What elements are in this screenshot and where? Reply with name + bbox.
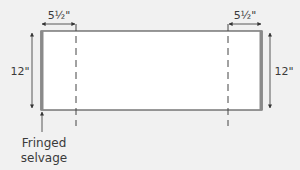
right-height-label: 12" (274, 65, 293, 78)
fabric-panel (41, 31, 262, 110)
selvage-callout: Fringed selvage (21, 112, 67, 165)
callout-line-1: Fringed (22, 136, 67, 150)
right-height-dimension: 12" (270, 33, 294, 108)
right-fold-label: 5½" (234, 9, 257, 22)
callout-line-2: selvage (21, 151, 67, 165)
right-fold-dimension: 5½" (229, 9, 261, 24)
left-height-dimension: 12" (10, 33, 32, 108)
diagram-canvas: 5½" 5½" 12" 12" Fringed selvage (0, 0, 300, 170)
left-height-label: 12" (10, 65, 29, 78)
left-fold-dimension: 5½" (42, 9, 75, 24)
left-fold-label: 5½" (48, 9, 71, 22)
